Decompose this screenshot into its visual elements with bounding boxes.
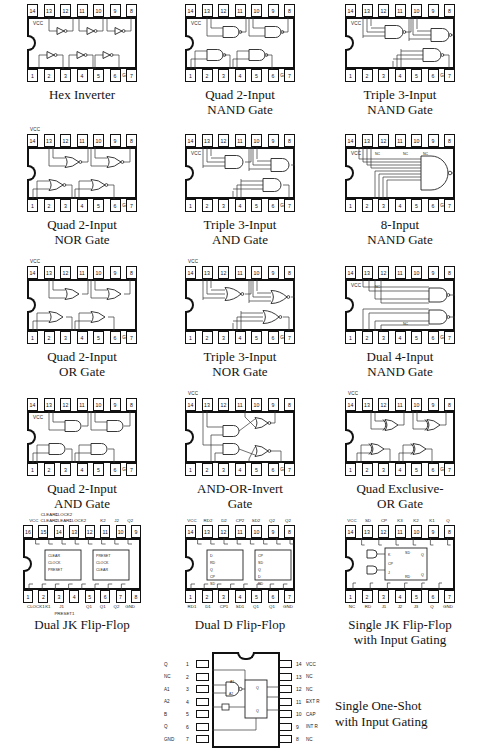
pin-11[interactable]: 11 [395, 266, 406, 279]
pin-5[interactable]: 5 [93, 199, 104, 212]
pin-11[interactable]: 11 [235, 266, 246, 279]
pin-10[interactable]: 10 [251, 525, 262, 538]
pin-2[interactable]: 2 [362, 199, 373, 212]
pin-14[interactable]: 14 [27, 134, 38, 147]
pin-9[interactable]: 9 [110, 398, 121, 411]
pin-14[interactable]: 14 [185, 4, 196, 17]
pin-7[interactable]: 7 [284, 69, 295, 82]
pin-3[interactable] [196, 685, 209, 693]
pin-1[interactable]: 1 [185, 199, 196, 212]
pin-12[interactable]: 12 [60, 266, 71, 279]
pin-7[interactable]: 7 [284, 590, 295, 603]
pin-2[interactable]: 2 [362, 590, 373, 603]
pin-9[interactable]: 9 [268, 266, 279, 279]
pin-6[interactable]: 6 [428, 463, 439, 476]
pin-13[interactable]: 13 [202, 134, 213, 147]
pin-10[interactable] [279, 710, 292, 718]
pin-9[interactable]: 9 [110, 4, 121, 17]
pin-13[interactable]: 13 [44, 398, 55, 411]
pin-2[interactable]: 2 [202, 199, 213, 212]
pin-9[interactable]: 9 [428, 4, 439, 17]
pin-13[interactable]: 13 [202, 4, 213, 17]
pin-13[interactable]: 13 [202, 525, 213, 538]
pin-12[interactable]: 12 [218, 398, 229, 411]
pin-5[interactable]: 5 [93, 69, 104, 82]
pin-13[interactable]: 13 [362, 4, 373, 17]
pin-4[interactable]: 4 [69, 590, 79, 603]
pin-2[interactable]: 2 [362, 463, 373, 476]
pin-4[interactable]: 4 [77, 463, 88, 476]
pin-2[interactable]: 2 [202, 590, 213, 603]
pin-5[interactable]: 5 [251, 331, 262, 344]
pin-13[interactable]: 13 [44, 266, 55, 279]
pin-8[interactable]: 8 [444, 266, 455, 279]
pin-5[interactable]: 5 [85, 590, 95, 603]
pin-7[interactable]: 7 [126, 331, 137, 344]
pin-4[interactable]: 4 [235, 199, 246, 212]
pin-5[interactable]: 5 [93, 463, 104, 476]
pin-1[interactable]: 1 [185, 463, 196, 476]
pin-10[interactable]: 10 [411, 4, 422, 17]
pin-4[interactable]: 4 [235, 69, 246, 82]
pin-11[interactable]: 11 [77, 398, 88, 411]
pin-14[interactable]: 14 [345, 525, 356, 538]
pin-14[interactable]: 14 [27, 398, 38, 411]
pin-7[interactable]: 7 [444, 69, 455, 82]
pin-14[interactable]: 14 [185, 398, 196, 411]
pin-3[interactable]: 3 [54, 590, 64, 603]
pin-2[interactable] [196, 673, 209, 681]
pin-7[interactable]: 7 [126, 463, 137, 476]
pin-6[interactable]: 6 [110, 69, 121, 82]
pin-6[interactable] [196, 723, 209, 731]
pin-7[interactable]: 7 [444, 331, 455, 344]
pin-2[interactable]: 2 [202, 69, 213, 82]
pin-9[interactable]: 9 [110, 134, 121, 147]
pin-2[interactable]: 2 [44, 463, 55, 476]
pin-11[interactable]: 11 [235, 398, 246, 411]
pin-3[interactable]: 3 [378, 331, 389, 344]
pin-2[interactable]: 2 [44, 199, 55, 212]
pin-15[interactable]: 15 [38, 525, 48, 538]
pin-8[interactable] [279, 735, 292, 743]
pin-4[interactable]: 4 [395, 331, 406, 344]
pin-1[interactable]: 1 [23, 590, 33, 603]
pin-10[interactable]: 10 [411, 134, 422, 147]
pin-11[interactable]: 11 [77, 4, 88, 17]
pin-12[interactable]: 12 [60, 134, 71, 147]
pin-11[interactable]: 11 [235, 525, 246, 538]
pin-14[interactable]: 14 [27, 4, 38, 17]
pin-1[interactable]: 1 [185, 331, 196, 344]
pin-13[interactable]: 13 [362, 134, 373, 147]
pin-7[interactable]: 7 [126, 69, 137, 82]
pin-7[interactable]: 7 [444, 463, 455, 476]
pin-1[interactable]: 1 [27, 69, 38, 82]
pin-3[interactable]: 3 [60, 69, 71, 82]
pin-13[interactable]: 13 [362, 398, 373, 411]
pin-12[interactable]: 12 [60, 398, 71, 411]
pin-8[interactable]: 8 [284, 525, 295, 538]
pin-1[interactable]: 1 [27, 199, 38, 212]
pin-6[interactable]: 6 [100, 590, 110, 603]
pin-11[interactable]: 11 [395, 398, 406, 411]
pin-9[interactable]: 9 [110, 266, 121, 279]
pin-4[interactable]: 4 [395, 590, 406, 603]
pin-9[interactable]: 9 [268, 398, 279, 411]
pin-13[interactable]: 13 [44, 4, 55, 17]
pin-5[interactable]: 5 [93, 331, 104, 344]
pin-3[interactable]: 3 [218, 69, 229, 82]
pin-11[interactable]: 11 [77, 134, 88, 147]
pin-12[interactable]: 12 [378, 525, 389, 538]
pin-14[interactable]: 14 [185, 266, 196, 279]
pin-10[interactable]: 10 [251, 4, 262, 17]
pin-12[interactable]: 12 [218, 134, 229, 147]
pin-1[interactable]: 1 [345, 69, 356, 82]
pin-9[interactable]: 9 [428, 134, 439, 147]
pin-1[interactable]: 1 [185, 590, 196, 603]
pin-2[interactable]: 2 [202, 463, 213, 476]
pin-8[interactable]: 8 [126, 4, 137, 17]
pin-2[interactable]: 2 [38, 590, 48, 603]
pin-1[interactable]: 1 [345, 463, 356, 476]
pin-11[interactable]: 11 [77, 266, 88, 279]
pin-11[interactable] [279, 698, 292, 706]
pin-8[interactable]: 8 [126, 266, 137, 279]
